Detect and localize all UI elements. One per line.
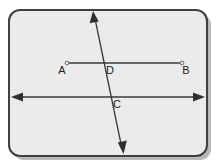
geometry-figure: A B D C bbox=[0, 0, 218, 166]
label-point-b: B bbox=[182, 64, 189, 76]
geometry-diagram-canvas: A B D C bbox=[0, 0, 218, 166]
label-point-a: A bbox=[58, 64, 66, 76]
label-point-c: C bbox=[113, 98, 121, 110]
label-point-d: D bbox=[106, 64, 114, 76]
